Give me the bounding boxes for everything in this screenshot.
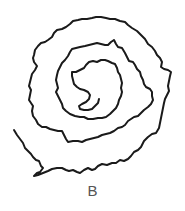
- spiral-drawing: [0, 0, 185, 211]
- spiral-stroke: [14, 17, 171, 176]
- figure-label: B: [0, 182, 185, 199]
